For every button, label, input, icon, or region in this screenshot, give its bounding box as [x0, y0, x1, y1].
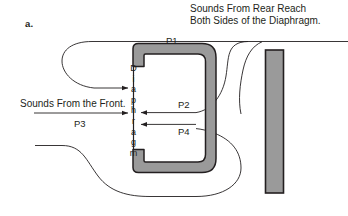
- diaphragm-vertical-label: Diaphragm: [128, 63, 139, 158]
- diaphragm-letter: D: [128, 63, 139, 74]
- rear-vertical-bar: [266, 50, 284, 193]
- diaphragm-letter: i: [128, 74, 139, 85]
- microphone-housing-body: [133, 44, 216, 173]
- diaphragm-letter: m: [128, 148, 139, 159]
- p1-label: P1: [166, 36, 178, 46]
- p3-label: P3: [74, 119, 86, 129]
- diaphragm-letter: a: [128, 127, 139, 138]
- p2-label: P2: [178, 100, 190, 110]
- rear-caption-line-2: Both Sides of the Diaphragm.: [190, 16, 321, 26]
- p4-label: P4: [178, 127, 190, 137]
- rear-caption-line-1: Sounds From Rear Reach: [190, 4, 306, 14]
- figure-panel: a. Sounds From Rear Reach Both Sides of …: [0, 0, 348, 216]
- diaphragm-letter: r: [128, 116, 139, 127]
- diaphragm-letter: g: [128, 137, 139, 148]
- diaphragm-letter: p: [128, 95, 139, 106]
- diaphragm-letter: a: [128, 84, 139, 95]
- front-caption: Sounds From the Front.: [20, 99, 126, 109]
- rear-path-right-descend-curve: [240, 42, 262, 114]
- diaphragm-letter: h: [128, 105, 139, 116]
- panel-letter-label: a.: [25, 19, 33, 29]
